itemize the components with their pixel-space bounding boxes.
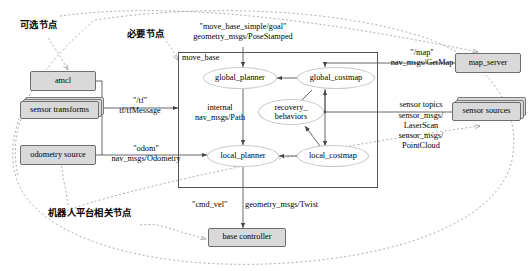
node-sensor-sources-stack[interactable]: sensor sources	[452, 97, 526, 121]
topic-cmd-vel-name: "cmd_vel"	[192, 200, 227, 210]
topic-odom-type: nav_msgs/Odometry	[98, 154, 194, 164]
annotation-required-nodes: 必要节点	[127, 29, 164, 39]
topic-internal-type: nav_msgs/Path	[180, 113, 260, 123]
topic-sensor-type-4: PointCloud	[386, 141, 456, 151]
node-map-server[interactable]: map_server	[455, 53, 521, 73]
junction-sensor-costmap	[324, 111, 327, 114]
node-sensor-transforms[interactable]: sensor transforms	[20, 101, 99, 119]
recovery-behaviors-line1: recovery_	[274, 103, 307, 113]
node-amcl[interactable]: amcl	[30, 71, 96, 91]
topic-tf-type: tf/tfMessage	[106, 106, 174, 116]
node-odometry-source[interactable]: odometry source	[20, 145, 96, 165]
component-recovery-behaviors[interactable]: recovery_ behaviors	[258, 99, 324, 125]
topic-odom-name: "odom"	[110, 144, 182, 154]
topic-tf-name: "/tf"	[110, 96, 170, 106]
edge-local-costmap-to-recovery	[305, 126, 320, 146]
node-sensor-sources[interactable]: sensor sources	[452, 102, 521, 121]
topic-sensor-name: sensor topics	[386, 100, 456, 110]
topic-sensor-type-2: LaserScan	[386, 121, 456, 131]
annotation-platform-nodes: 机器人平台相关节点	[48, 208, 132, 218]
topic-sensor-type-1: sensor_msgs/	[386, 111, 456, 121]
topic-goal-type: geometry_msgs/PoseStamped	[178, 32, 308, 42]
topic-internal-name: internal	[186, 103, 254, 113]
topic-sensor-type-3: sensor_msgs/	[386, 131, 456, 141]
diagram-canvas: move_base glob	[0, 0, 530, 271]
component-local-costmap[interactable]: local_costmap	[297, 145, 369, 167]
topic-goal-name: "move_base_simple/goal"	[182, 22, 304, 32]
component-local-planner[interactable]: local_planner	[207, 145, 279, 167]
topic-map-type: nav_msgs/GetMap	[380, 58, 464, 68]
component-global-planner[interactable]: global_planner	[203, 67, 277, 89]
node-sensor-transforms-stack[interactable]: sensor transforms	[20, 97, 104, 119]
component-global-costmap[interactable]: global_costmap	[297, 67, 375, 89]
topic-cmd-vel-type: geometry_msgs/Twist	[245, 200, 318, 210]
node-base-controller[interactable]: base controller	[208, 228, 286, 247]
topic-map-name: "/map"	[386, 48, 458, 58]
recovery-behaviors-line2: behaviors	[275, 112, 307, 122]
annotation-optional-nodes: 可选节点	[20, 20, 57, 30]
